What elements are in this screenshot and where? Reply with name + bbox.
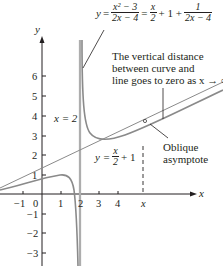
fraction-1-denominator: 2x − 4 — [111, 13, 139, 23]
equation-fraction-1: x² − 3 2x − 4 — [111, 2, 139, 23]
x-tick-label: 0 — [33, 198, 38, 209]
equation-lhs: y — [96, 7, 101, 19]
x-axis-arrow-icon — [190, 192, 197, 197]
distance-annotation: The vertical distance between curve and … — [112, 50, 223, 86]
x-var-tick-label: x — [141, 198, 146, 209]
line-eq-rhs: + 1 — [121, 151, 135, 163]
curve-equation: y = x² − 3 2x − 4 = x 2 + 1 + 1 2x − 4 — [96, 2, 212, 23]
y-tick-label: 3 — [32, 131, 37, 142]
y-axis-arrow-icon — [40, 36, 45, 43]
y-tick-label: 5 — [32, 91, 37, 102]
line-eq-denominator: 2 — [112, 157, 119, 167]
oblique-line-equation: y = x 2 + 1 — [95, 146, 136, 167]
y-ticks — [42, 76, 46, 253]
x-tick-label: −1 — [14, 198, 25, 209]
intersection-point — [143, 119, 146, 122]
x-tick-label: 1 — [58, 198, 63, 209]
x-tick-label: 3 — [96, 198, 101, 209]
oblique-label-line-1: Oblique — [163, 141, 208, 153]
y-tick-label: 4 — [32, 111, 37, 122]
line-eq-fraction: x 2 — [112, 146, 119, 167]
annotation-line-3: line goes to zero as x → ∞ — [112, 74, 223, 86]
equation-equals-1: = — [103, 7, 109, 19]
vertical-asymptote-label: x = 2 — [54, 113, 77, 124]
annotation-line-2: between curve and — [112, 62, 223, 74]
fraction-3-denominator: 2x − 4 — [184, 13, 212, 23]
y-tick-label: −3 — [27, 248, 38, 259]
fraction-2-denominator: 2 — [150, 13, 157, 23]
y-axis-label: y — [35, 24, 40, 35]
equation-fraction-3: 1 2x − 4 — [184, 2, 212, 23]
y-tick-label: −1 — [27, 209, 38, 220]
oblique-label-line-2: asymptote — [163, 153, 208, 165]
equation-fraction-2: x 2 — [150, 2, 157, 23]
curve-left-branch — [0, 175, 78, 266]
line-eq-lhs: y = — [95, 151, 110, 163]
equation-equals-2: = — [141, 7, 147, 19]
x-tick-label: 2 — [78, 198, 83, 209]
annotation-line-1: The vertical distance — [112, 50, 223, 62]
y-tick-label: 2 — [32, 150, 37, 161]
y-tick-label: −2 — [27, 228, 38, 239]
x-tick-label: 4 — [115, 198, 120, 209]
oblique-asymptote-label: Oblique asymptote — [163, 141, 208, 165]
y-tick-label: 6 — [32, 71, 37, 82]
equation-plus: + 1 + — [159, 7, 182, 19]
y-tick-label: 1 — [32, 170, 37, 181]
x-axis-label: x — [199, 188, 204, 199]
oblique-pointer — [150, 124, 168, 138]
equation-pointer — [83, 30, 104, 68]
